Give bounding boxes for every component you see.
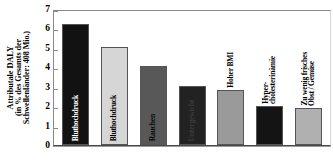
y-axis-tick-label: 2	[45, 102, 50, 112]
bar-slot: Zu wenig frischesObst / Gemüse	[289, 11, 328, 145]
y-axis-tick-labels: 76543210	[38, 0, 52, 155]
bar-label: Untergewicht	[188, 100, 196, 141]
y-axis-tick-label: 5	[45, 44, 50, 54]
bar-slot: Bluthochdruck	[56, 11, 95, 145]
y-axis-tick-label: 6	[45, 25, 50, 35]
bar-label-line: Obst / Gemüse	[309, 61, 317, 106]
bar-chart: Attributale DALY (in % des Gesamts der S…	[0, 0, 333, 162]
bar-label-line: Hoher BMI	[227, 52, 235, 88]
y-axis-tick-label: 4	[45, 64, 50, 74]
bar-label-line: cholesterinämie	[270, 56, 278, 104]
bar-label: Hoher BMI	[227, 52, 235, 88]
bar[interactable]: Hoher BMI	[217, 90, 244, 145]
bar-label: Bluthochdruck	[110, 95, 118, 141]
bar[interactable]: Hyper-cholesterinämie	[256, 106, 283, 145]
bar[interactable]: Bluthochdruck	[62, 24, 89, 145]
bar-slot: Hyper-cholesterinämie	[250, 11, 289, 145]
y-axis-tick-label: 1	[45, 122, 50, 132]
plot-area: BluthochdruckBluthochdruckRauchenUnterge…	[53, 10, 331, 146]
bar-label: Bluthochdruck	[72, 95, 80, 141]
bar-slot: Rauchen	[134, 11, 173, 145]
y-axis-title: Attributale DALY (in % des Gesamts der S…	[0, 0, 38, 155]
bar-slot: Hoher BMI	[211, 11, 250, 145]
bar[interactable]: Zu wenig frischesObst / Gemüse	[295, 108, 322, 145]
bar[interactable]: Untergewicht	[179, 86, 206, 145]
baseline-rule	[53, 146, 331, 147]
bar-label: Rauchen	[149, 114, 157, 141]
y-axis-tick-label: 0	[45, 141, 50, 151]
y-axis-tick-label: 3	[45, 83, 50, 93]
bar[interactable]: Bluthochdruck	[101, 47, 128, 145]
bar-label: Hyper-cholesterinämie	[262, 56, 277, 104]
bar-slot: Untergewicht	[173, 11, 212, 145]
bar-slot: Bluthochdruck	[95, 11, 134, 145]
bars-container: BluthochdruckBluthochdruckRauchenUnterge…	[54, 11, 330, 145]
bar-label: Zu wenig frischesObst / Gemüse	[301, 52, 316, 106]
y-axis-title-line-3: Schwellenländer: 408 Mio.)	[23, 31, 31, 124]
bar[interactable]: Rauchen	[140, 66, 167, 145]
y-axis-tick-label: 7	[45, 5, 50, 15]
